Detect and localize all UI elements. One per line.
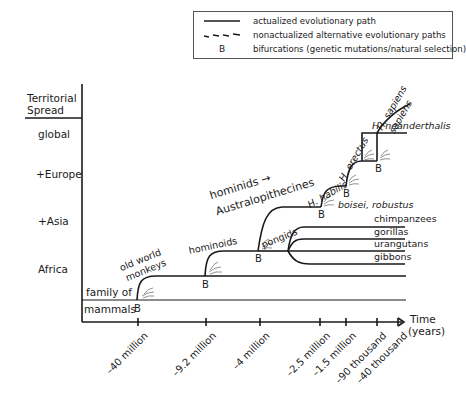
label-chimpanzees: chimpanzees <box>374 213 437 224</box>
h-neanderthalis-path <box>362 133 407 161</box>
y-axis-title-line2: Spread <box>27 104 77 116</box>
x-axis-title-line1: Time <box>410 313 436 325</box>
trunk-label-line1: family of <box>86 286 132 298</box>
trunk-label-line2: mammals <box>84 303 136 315</box>
old-world-monkeys-path <box>137 276 406 300</box>
bifurcation-marker: B <box>255 253 262 264</box>
y-level-africa: Africa <box>38 263 68 275</box>
x-axis-title-line2: (years) <box>408 325 445 337</box>
label-urangutans: urangutans <box>374 238 428 249</box>
label-gibbons: gibbons <box>374 251 412 262</box>
bifurcation-marker: B <box>202 279 209 290</box>
y-level-global: global <box>38 128 70 140</box>
y-level-europe: +Europe <box>36 168 82 180</box>
label-h-neanderthalis: H. neanderthalis <box>372 120 450 131</box>
hominoids-path <box>205 251 258 276</box>
bifurcation-marker: B <box>375 163 382 174</box>
label-gorillas: gorillas <box>374 226 408 237</box>
bifurcation-marker: B <box>134 303 141 314</box>
bifurcation-marker: B <box>318 209 325 220</box>
label-boisei-robustus: boisei, robustus <box>338 199 413 210</box>
y-level-asia: +Asia <box>38 215 69 227</box>
y-axis-title-line1: Territorial <box>27 92 77 104</box>
y-axis-title: Territorial Spread <box>27 92 77 116</box>
